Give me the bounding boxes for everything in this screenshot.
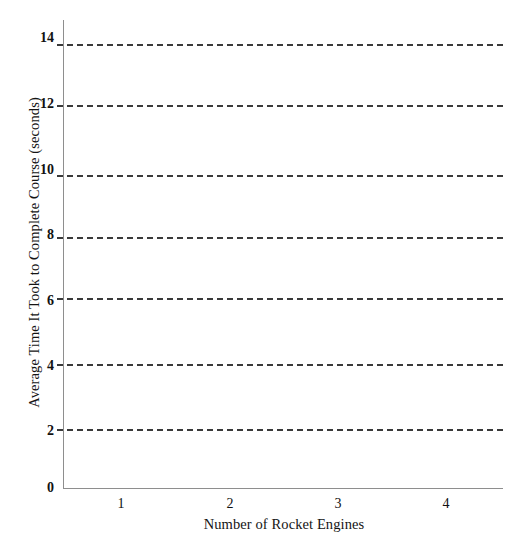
y-tick-label: 6: [26, 294, 54, 308]
y-tick-label: 8: [26, 228, 54, 242]
chart-canvas: Average Time It Took to Complete Course …: [0, 0, 517, 549]
x-tick-label: 3: [325, 497, 351, 511]
x-tick-label: 4: [433, 497, 459, 511]
x-tick-label: 2: [217, 497, 243, 511]
data-line-7: [57, 429, 503, 431]
y-tick-label: 0: [26, 481, 54, 495]
data-line-5: [57, 298, 503, 300]
data-line-3: [57, 175, 503, 177]
data-line-6: [57, 364, 503, 366]
data-line-2: [57, 105, 503, 107]
y-tick-label: 12: [26, 97, 54, 111]
x-axis-line: [63, 488, 503, 489]
data-line-4: [57, 237, 503, 239]
data-line-1: [57, 44, 503, 46]
y-tick-label: 14: [26, 31, 54, 45]
x-tick-label: 1: [108, 497, 134, 511]
y-tick-label: 4: [26, 359, 54, 373]
y-tick-label: 10: [26, 163, 54, 177]
x-axis-title: Number of Rocket Engines: [60, 516, 508, 533]
y-axis-line: [63, 20, 64, 489]
y-tick-label: 2: [26, 424, 54, 438]
